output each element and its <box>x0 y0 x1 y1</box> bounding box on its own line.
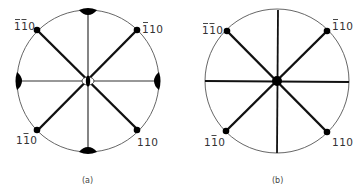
center-pole-dot-icon <box>272 76 282 86</box>
pole-label-b-bottom-left: 110 <box>204 136 226 149</box>
pole-label-b-top-left: 110 <box>202 24 224 37</box>
twofold-axis-left-icon <box>16 72 23 90</box>
center-twofold-axis-icon <box>86 76 90 87</box>
pole-dot-a-bottom-right <box>134 127 141 134</box>
caption-b: (b) <box>272 176 283 185</box>
panel-a: 110 110 110 110 (a) <box>14 8 164 185</box>
svg-text:110: 110 <box>332 136 354 148</box>
pole-dot-b-bottom-right <box>324 129 331 136</box>
pole-dot-a-top-right <box>134 27 141 34</box>
pole-dot-b-top-right <box>324 28 331 35</box>
twofold-axis-bottom-icon <box>79 147 97 154</box>
pole-dot-b-top-left <box>224 28 231 35</box>
panel-b: 110 110 110 110 (b) <box>202 9 354 185</box>
pole-label-b-top-right: 110 <box>332 20 354 33</box>
pole-label-a-bottom-right: 110 <box>137 136 159 148</box>
pole-dot-b-bottom-left <box>223 128 230 135</box>
svg-text:110: 110 <box>204 136 226 148</box>
twofold-axis-top-icon <box>79 8 97 15</box>
svg-text:110: 110 <box>142 23 164 35</box>
pole-label-a-top-left: 110 <box>14 20 36 33</box>
svg-text:110: 110 <box>202 24 224 36</box>
svg-text:110: 110 <box>14 20 36 32</box>
svg-text:110: 110 <box>137 136 159 148</box>
caption-a: (a) <box>82 176 93 185</box>
pole-dot-a-bottom-left <box>34 127 41 134</box>
pole-label-a-bottom-left: 110 <box>16 134 38 147</box>
svg-text:110: 110 <box>16 134 38 146</box>
pole-label-b-bottom-right: 110 <box>332 136 354 148</box>
stereographic-projections-figure: 110 110 110 110 (a) <box>0 0 364 195</box>
svg-text:110: 110 <box>332 20 354 32</box>
twofold-axis-right-icon <box>154 72 161 90</box>
pole-label-a-top-right: 110 <box>142 23 164 36</box>
